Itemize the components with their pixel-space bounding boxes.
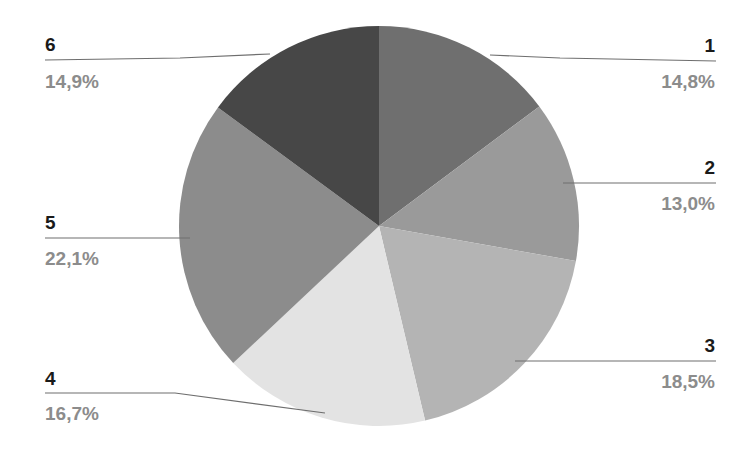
slice-label-name-2: 2 (704, 157, 715, 178)
slice-label-value-4: 16,7% (45, 403, 99, 424)
slice-label-name-6: 6 (45, 34, 56, 55)
slice-label-name-4: 4 (45, 368, 56, 389)
slice-label-value-5: 22,1% (45, 248, 99, 269)
slice-label-value-2: 13,0% (661, 193, 715, 214)
slice-label-name-3: 3 (704, 335, 715, 356)
leader-line-6 (45, 54, 270, 60)
slice-label-name-5: 5 (45, 212, 56, 233)
slice-label-name-1: 1 (704, 35, 715, 56)
leader-line-1 (490, 55, 716, 61)
slice-label-value-1: 14,8% (661, 71, 715, 92)
pie-chart: 1 14,8% 2 13,0% 3 18,5% 4 16,7% 5 22,1% … (0, 0, 753, 451)
slice-label-value-3: 18,5% (661, 371, 715, 392)
pie-slices (179, 26, 579, 426)
slice-label-value-6: 14,9% (45, 71, 99, 92)
